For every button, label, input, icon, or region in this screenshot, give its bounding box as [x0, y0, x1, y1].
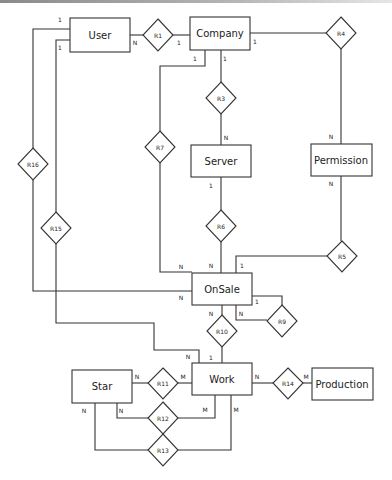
relationship-r7-label: R7	[156, 144, 164, 151]
card-user-r15: 1	[58, 44, 62, 51]
entity-permission-label: Permission	[314, 155, 368, 166]
relationship-r10-label: R10	[216, 328, 228, 335]
entity-production[interactable]: Production	[312, 368, 373, 400]
card-star-r12: N	[119, 407, 124, 414]
relationship-r12[interactable]: R12	[148, 402, 178, 434]
card-work-r11: M	[180, 373, 185, 380]
card-company-r4: 1	[253, 38, 257, 45]
card-onsale-r16: N	[179, 294, 184, 301]
card-onsale-r6: N	[209, 262, 214, 269]
entity-company-label: Company	[196, 28, 244, 39]
relationship-r12-label: R12	[157, 415, 169, 422]
entity-onsale-label: OnSale	[204, 284, 240, 295]
cardinality-labels: 1 1 N 1 1 1 1 N N 1 N N 1 N N 1 N N N 1 …	[58, 16, 333, 414]
card-onsale-r7: N	[179, 263, 184, 270]
relationship-r14[interactable]: R14	[273, 368, 303, 399]
entity-permission[interactable]: Permission	[311, 144, 372, 176]
card-work-r15: N	[186, 353, 191, 360]
relationship-r13-label: R13	[157, 447, 169, 454]
card-company-r7: 1	[193, 55, 197, 62]
card-onsale-r5: 1	[240, 262, 244, 269]
entity-star[interactable]: Star	[72, 370, 132, 403]
relationship-r7[interactable]: R7	[145, 131, 175, 163]
entity-work[interactable]: Work	[192, 363, 252, 395]
relationship-r4-label: R4	[337, 30, 345, 37]
relationship-r5-label: R5	[338, 253, 346, 260]
card-work-r14: N	[255, 373, 260, 380]
entity-user[interactable]: User	[70, 18, 130, 52]
relationship-r16[interactable]: R16	[18, 148, 48, 180]
card-work-r10: 1	[209, 354, 213, 361]
card-work-r12: M	[202, 406, 207, 413]
card-star-r13: N	[82, 407, 87, 414]
relationship-r6[interactable]: R6	[206, 210, 236, 242]
relationship-r1-label: R1	[154, 32, 162, 39]
entity-work-label: Work	[209, 374, 235, 385]
entity-star-label: Star	[92, 381, 113, 392]
relationship-r14-label: R14	[282, 380, 294, 387]
entity-server-label: Server	[205, 156, 239, 167]
entity-server[interactable]: Server	[191, 145, 251, 177]
relationship-r4[interactable]: R4	[326, 17, 356, 49]
card-onsale-r9-1: 1	[255, 298, 259, 305]
card-company-r3: 1	[223, 55, 227, 62]
relationship-r10[interactable]: R10	[207, 315, 237, 347]
entity-production-label: Production	[315, 379, 368, 390]
card-server-r6: 1	[209, 182, 213, 189]
card-server-r3: N	[224, 134, 229, 141]
relationship-r6-label: R6	[217, 223, 225, 230]
card-onsale-r10: N	[209, 310, 214, 317]
relationship-r13[interactable]: R13	[148, 434, 178, 466]
card-production-r14: M	[303, 373, 308, 380]
relationship-r16-label: R16	[27, 161, 39, 168]
relationship-r3-label: R3	[217, 95, 225, 102]
card-permission-r5: N	[329, 180, 334, 187]
card-work-r13: M	[233, 406, 238, 413]
relationship-r1[interactable]: R1	[143, 19, 173, 51]
card-permission-r4: N	[329, 133, 334, 140]
relationship-r9[interactable]: R9	[267, 305, 297, 337]
relationship-r9-label: R9	[278, 318, 286, 325]
card-user-r16: 1	[58, 16, 62, 23]
relationship-r3[interactable]: R3	[206, 82, 236, 114]
relationship-r5[interactable]: R5	[327, 241, 357, 272]
entity-onsale[interactable]: OnSale	[192, 273, 252, 305]
er-diagram-canvas: User Company Server Permission OnSale Wo…	[0, 0, 392, 480]
relationship-r11-label: R11	[157, 380, 169, 387]
relationship-r15-label: R15	[50, 225, 62, 232]
card-star-r11: N	[135, 373, 140, 380]
entity-user-label: User	[89, 30, 113, 41]
card-company-r1: 1	[177, 39, 181, 46]
relationship-r11[interactable]: R11	[148, 368, 178, 399]
entity-company[interactable]: Company	[190, 17, 250, 50]
card-onsale-r9-n: N	[239, 310, 244, 317]
relationship-r15[interactable]: R15	[41, 212, 71, 244]
card-user-r1: N	[133, 39, 138, 46]
